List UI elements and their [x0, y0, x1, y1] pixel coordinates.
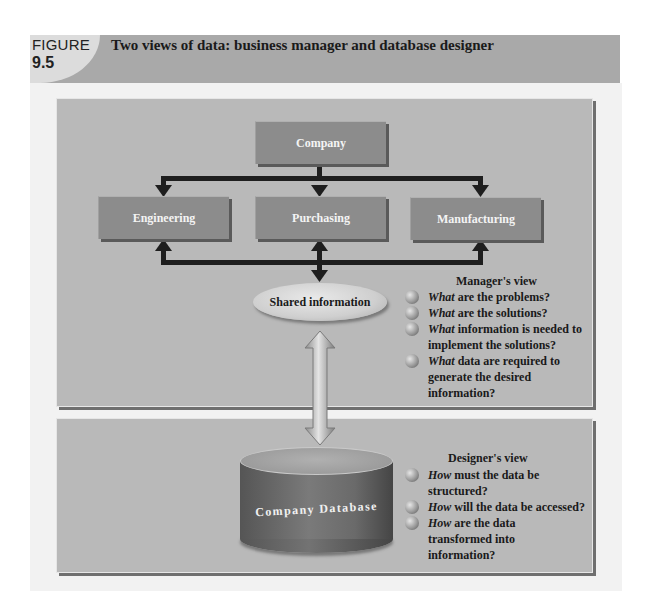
sphere-bullet-icon	[405, 468, 419, 482]
purchasing-box: Purchasing	[255, 196, 386, 239]
sphere-bullet-icon	[405, 354, 419, 368]
company-box: Company	[255, 121, 386, 164]
manufacturing-label: Manufacturing	[437, 212, 515, 227]
designer-question: How must the data be structured?	[405, 467, 600, 499]
manager-question: What data are required to generate the d…	[405, 353, 595, 401]
manager-view-title: Manager's view	[456, 274, 537, 289]
designer-question: How will the data be accessed?	[405, 499, 600, 515]
sphere-bullet-icon	[405, 516, 419, 530]
engineering-label: Engineering	[133, 211, 196, 226]
engineering-box: Engineering	[98, 196, 229, 239]
shared-information-ellipse: Shared information	[253, 283, 387, 321]
manager-question: What are the problems?	[405, 289, 595, 305]
manager-question: What information is needed to implement …	[405, 321, 595, 353]
sphere-bullet-icon	[405, 306, 419, 320]
manager-view-list: What are the problems? What are the solu…	[405, 289, 595, 401]
company-label: Company	[296, 136, 346, 151]
database-cylinder-top	[240, 447, 393, 475]
shared-information-label: Shared information	[270, 295, 371, 310]
designer-view-list: How must the data be structured? How wil…	[405, 467, 600, 563]
designer-question: How are the data transformed into inform…	[405, 515, 600, 563]
manager-question: What are the solutions?	[405, 305, 595, 321]
sphere-bullet-icon	[405, 290, 419, 304]
sphere-bullet-icon	[405, 322, 419, 336]
double-arrow-icon	[300, 328, 342, 450]
purchasing-label: Purchasing	[292, 211, 350, 226]
manufacturing-box: Manufacturing	[410, 197, 541, 240]
sphere-bullet-icon	[405, 500, 419, 514]
designer-view-title: Designer's view	[448, 451, 528, 466]
bottom-horizontal-connector	[161, 260, 483, 265]
